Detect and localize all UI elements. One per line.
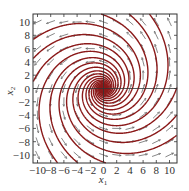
field-arrow	[141, 32, 146, 39]
field-arrow	[154, 31, 158, 39]
field-arrow	[126, 127, 135, 129]
field-arrow	[127, 19, 134, 25]
x-tick-label: 10	[164, 164, 176, 176]
y-tick-label: −2	[18, 96, 30, 108]
field-arrow	[60, 34, 69, 37]
field-arrow	[166, 126, 173, 132]
field-arrow	[152, 140, 160, 144]
field-arrow	[61, 138, 66, 145]
y-tick-label: 6	[25, 43, 31, 55]
field-arrow	[153, 126, 160, 131]
axes	[33, 14, 177, 163]
field-arrow	[112, 154, 121, 155]
field-arrow	[49, 138, 53, 146]
field-arrow	[73, 47, 82, 49]
y-tick-label: −4	[18, 109, 30, 121]
field-arrow	[49, 124, 52, 133]
x-tick-label: 2	[114, 164, 120, 176]
field-arrow	[47, 33, 55, 37]
field-arrow	[168, 31, 171, 40]
ticks: −10−8−6−4−202468101086420−2−4−6−8−10	[13, 14, 177, 176]
field-arrow	[165, 153, 173, 157]
field-arrow	[167, 112, 173, 119]
y-tick-label: 2	[25, 69, 31, 81]
field-arrow	[47, 46, 54, 51]
x-tick-label: 8	[154, 164, 160, 176]
field-arrow	[140, 19, 146, 26]
x-tick-label: 6	[140, 164, 146, 176]
y-tick-label: −6	[18, 122, 30, 134]
field-arrow	[74, 152, 81, 158]
x-tick-label: 4	[127, 164, 133, 176]
field-arrow	[86, 21, 95, 22]
phase-portrait-chart: −10−8−6−4−202468101086420−2−4−6−8−10 x1 …	[0, 0, 189, 191]
trajectory-curve	[39, 51, 125, 163]
field-arrow	[169, 71, 170, 80]
x-tick-label: −6	[58, 164, 70, 176]
field-arrow	[37, 124, 39, 133]
y-tick-label: 0	[25, 83, 31, 95]
field-arrow	[36, 151, 40, 159]
trajectory-curve	[33, 24, 140, 110]
y-tick-label: −10	[13, 149, 31, 161]
field-arrow	[46, 21, 55, 24]
x-tick-label: −4	[71, 164, 83, 176]
field-arrow	[168, 18, 172, 26]
field-arrow	[59, 21, 68, 23]
field-arrow	[169, 44, 171, 53]
field-arrow	[63, 111, 65, 120]
x-tick-label: −2	[84, 164, 96, 176]
y-axis-label: x2	[3, 86, 17, 96]
field-arrow	[152, 154, 161, 157]
trajectory-curve	[82, 14, 168, 126]
x-tick-label: −8	[45, 164, 57, 176]
field-arrow	[139, 154, 148, 156]
field-arrow	[61, 152, 67, 159]
y-tick-label: −8	[18, 136, 30, 148]
y-tick-label: 10	[19, 16, 31, 28]
field-arrow	[36, 137, 39, 146]
y-tick-label: 4	[25, 56, 31, 68]
field-arrow	[155, 44, 158, 53]
field-arrow	[139, 140, 148, 143]
field-arrow	[142, 58, 144, 67]
field-arrow	[37, 97, 38, 106]
y-tick-label: 8	[25, 29, 31, 41]
